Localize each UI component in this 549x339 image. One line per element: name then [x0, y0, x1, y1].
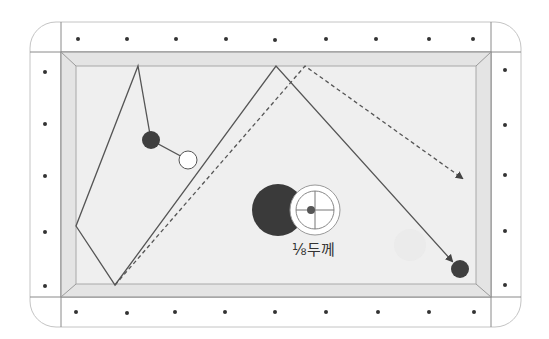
object-ball	[142, 131, 160, 149]
contact-point	[307, 206, 315, 214]
thickness-label: ⅛두께	[292, 238, 335, 259]
billiard-table	[0, 0, 549, 339]
target-ball	[451, 260, 469, 278]
cue-ball	[179, 151, 197, 169]
thickness-indicator	[252, 184, 340, 236]
ghost-area	[394, 229, 426, 261]
